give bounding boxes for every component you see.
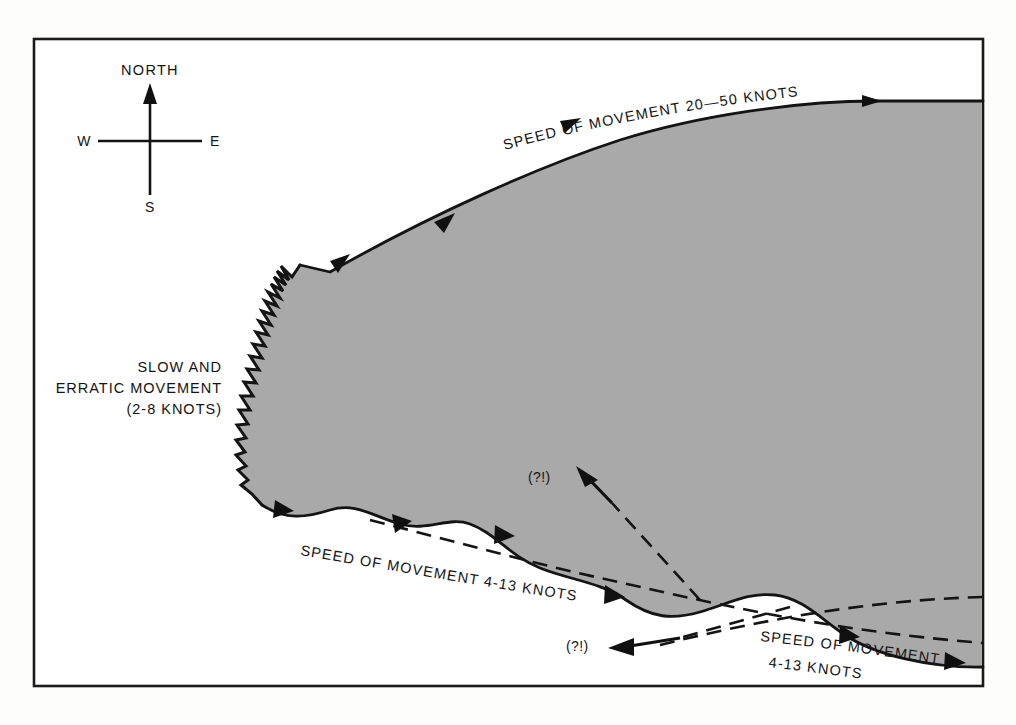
compass-east-label: E (210, 133, 220, 149)
query-upper-label: (?!) (528, 469, 551, 485)
west-speed-label-line3: (2-8 KNOTS) (126, 401, 222, 417)
query-lower-label: (?!) (566, 638, 589, 654)
compass-west-label: W (77, 133, 91, 149)
compass-north-label: NORTH (121, 62, 179, 78)
west-speed-label-line2: ERRATIC MOVEMENT (56, 380, 222, 396)
diagram-page: NORTH S W E SPEED OF MOVEMENT 20—50 KNOT… (0, 0, 1016, 725)
compass-south-label: S (145, 199, 155, 215)
west-speed-label-line1: SLOW AND (137, 359, 222, 375)
air-mass-diagram: NORTH S W E SPEED OF MOVEMENT 20—50 KNOT… (0, 0, 1016, 725)
